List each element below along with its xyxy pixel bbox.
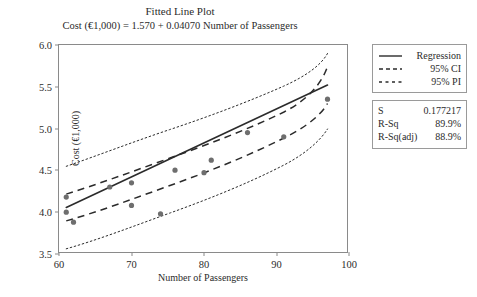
data-point: [129, 180, 134, 185]
x-tick-label: 70: [126, 252, 137, 270]
regression-line: [66, 85, 327, 208]
scatter-points: [64, 97, 330, 225]
stat-label: R-Sq(adj): [378, 130, 420, 143]
y-tick-label: 6.0: [15, 40, 59, 51]
legend-item-regression: Regression: [377, 49, 461, 62]
stat-value: 88.9%: [435, 130, 461, 143]
y-tick-label: 5.0: [15, 123, 59, 134]
y-axis-label: Cost (€1,000): [70, 79, 81, 199]
legend: Regression 95% CI 95% PI: [372, 44, 467, 93]
legend-label: Regression: [404, 50, 461, 61]
legend-label: 95% PI: [404, 76, 461, 87]
y-tick-label: 4.5: [15, 165, 59, 176]
data-point: [201, 170, 206, 175]
data-point: [209, 158, 214, 163]
fitted-line-plot-figure: Fitted Line Plot Cost (€1,000) = 1.570 +…: [0, 0, 477, 297]
legend-label: 95% CI: [404, 63, 461, 74]
dashed-line-icon: [377, 64, 404, 74]
data-point: [129, 203, 134, 208]
data-point: [64, 210, 69, 215]
plot-canvas: [59, 45, 349, 254]
x-tick-label: 100: [341, 252, 357, 270]
stat-label: S: [378, 104, 387, 117]
chart-title-block: Fitted Line Plot Cost (€1,000) = 1.570 +…: [0, 5, 360, 32]
data-point: [158, 211, 163, 216]
data-point: [172, 168, 177, 173]
stat-row-rsq-adj: R-Sq(adj) 88.9%: [378, 130, 461, 143]
stat-value: 89.9%: [435, 117, 461, 130]
chart-title: Fitted Line Plot: [0, 5, 360, 19]
pi-upper-curve: [66, 54, 327, 167]
y-tick-label: 4.0: [15, 207, 59, 218]
data-point: [245, 130, 250, 135]
x-tick-label: 90: [271, 252, 282, 270]
x-axis-label: Number of Passengers: [58, 272, 348, 283]
data-point: [281, 134, 286, 139]
data-point: [107, 184, 112, 189]
data-point: [71, 220, 76, 225]
data-point: [325, 97, 330, 102]
y-tick-label: 3.5: [15, 249, 59, 260]
stat-value: 0.177217: [424, 104, 462, 117]
legend-item-ci: 95% CI: [377, 62, 461, 75]
dotted-line-icon: [377, 77, 404, 87]
plot-area: 3.5 4.0 4.5 5.0 5.5 6.0 60 70 80 90 100 …: [58, 44, 348, 253]
x-tick-label: 80: [199, 252, 210, 270]
statistics-box: S 0.177217 R-Sq 89.9% R-Sq(adj) 88.9%: [372, 100, 467, 149]
x-tick-label: 60: [54, 252, 65, 270]
y-tick-label: 5.5: [15, 81, 59, 92]
stat-row-rsq: R-Sq 89.9%: [378, 117, 461, 130]
stat-label: R-Sq: [378, 117, 402, 130]
chart-subtitle-equation: Cost (€1,000) = 1.570 + 0.04070 Number o…: [0, 19, 360, 32]
data-point: [64, 195, 69, 200]
solid-line-icon: [377, 51, 404, 61]
legend-item-pi: 95% PI: [377, 75, 461, 88]
stat-row-s: S 0.177217: [378, 104, 461, 117]
